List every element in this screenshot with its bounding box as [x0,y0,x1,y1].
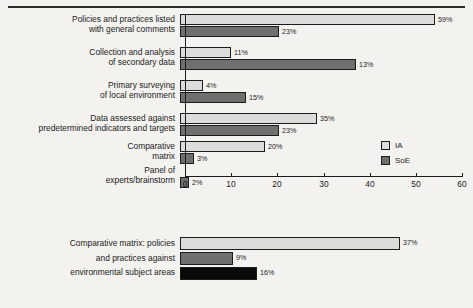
axis-tick-label: 20 [272,180,281,189]
bar-soe [180,153,194,164]
bar-row-soe: 15% [180,92,473,103]
bar-ia [180,80,203,91]
bar-value-label-soe: 15% [249,94,263,101]
category-label-line2: of secondary data [0,57,175,67]
bar-row-ia: 35% [180,113,473,124]
bar-ia [180,47,231,58]
bar-row: 16% [180,266,473,280]
legend-label-ia: IA [395,141,403,150]
category-label: Data assessed againstpredetermined indic… [0,113,180,134]
bar-value-label-ia: 20% [268,143,282,150]
axis-tick-label: 50 [411,180,420,189]
category-bars: 11%13% [180,47,473,71]
category-bars: 35%23% [180,113,473,137]
bar-value-label-soe: 13% [359,61,373,68]
category-label-line2: experts/brainstorm [0,175,175,185]
legend-item-soe: SoE [381,156,410,165]
axis-tick-label: 60 [457,180,466,189]
axis-tick [277,173,278,177]
bar-soe [180,125,279,136]
bar-row: 9% [180,251,473,265]
bottom-chart-row: Comparative matrix: policies and practic… [0,232,473,281]
category-label-line2: with general comments [0,24,175,34]
bar-ia [180,267,257,280]
category-bars: 59%23% [180,14,473,38]
bar-value-label: 37% [403,239,417,246]
category-label: Panel ofexperts/brainstorm [0,165,180,186]
chart-row: Data assessed againstpredetermined indic… [0,113,473,137]
bottom-chart-figure: Comparative matrix: policies and practic… [0,232,473,308]
axis-tick-label: 0 [183,180,188,189]
bar-value-label-soe: 3% [197,155,207,162]
chart-row: Policies and practices listedwith genera… [0,14,473,38]
bar-row-soe: 23% [180,125,473,136]
top-chart-x-axis: 0102030405060 [185,176,468,200]
axis-tick [185,173,186,177]
bottom-chart-bars: 37%9%16% [180,236,473,281]
chart-row: Primary surveyingof local environment4%1… [0,80,473,104]
bottom-chart-category-label-line3: environmental subject areas [0,265,175,280]
bar-row-ia: 11% [180,47,473,58]
bar-row-ia: 4% [180,80,473,91]
axis-tick [324,173,325,177]
top-chart-figure: Policies and practices listedwith genera… [0,0,473,210]
category-label-line1: Collection and analysis [0,47,175,57]
axis-tick-label: 40 [365,180,374,189]
bar-row-ia: 59% [180,14,473,25]
bar-full-audit-soe [180,252,233,265]
bar-value-label-soe: 23% [282,127,296,134]
category-bars: 4%15% [180,80,473,104]
bar-value-label-ia: 4% [206,82,216,89]
legend-label-soe: SoE [395,156,410,165]
chart-row: Collection and analysisof secondary data… [0,47,473,71]
bottom-chart-category-label: Comparative matrix: policies and practic… [0,236,180,280]
category-label-line1: Primary surveying [0,80,175,90]
legend-item-ia: IA [381,141,410,150]
bar-ia [180,141,265,152]
bar-row-soe: 23% [180,26,473,37]
bar-row-soe: 13% [180,59,473,70]
bar-value-label-soe: 23% [282,28,296,35]
legend-swatch-ia-icon [381,141,390,150]
bar-value-label-ia: 11% [234,49,248,56]
category-label-line1: Data assessed against [0,113,175,123]
bar-value-label-ia: 59% [438,16,452,23]
header-divider-rule [8,6,465,8]
bar-ia [180,113,317,124]
axis-tick [416,173,417,177]
bar-row-soe: 3% [180,153,473,164]
category-label-line2: predetermined indicators and targets [0,123,175,133]
axis-tick [370,173,371,177]
bar-row-ia: 20% [180,141,473,152]
bar-soe [180,59,356,70]
top-chart-y-axis-line [185,14,186,177]
category-label-line2: matrix [0,151,175,161]
category-label: Collection and analysisof secondary data [0,47,180,68]
bar-full-audit-ia [180,237,400,250]
category-label-line1: Policies and practices listed [0,14,175,24]
category-label: Primary surveyingof local environment [0,80,180,101]
axis-tick-label: 10 [226,180,235,189]
bar-soe [180,92,246,103]
legend-swatch-soe-icon [381,156,390,165]
bottom-chart-category-label-line1: Comparative matrix: policies [0,236,175,251]
category-label-line1: Comparative [0,141,175,151]
axis-tick [462,173,463,177]
category-label: Policies and practices listedwith genera… [0,14,180,35]
bar-ia [180,14,435,25]
bar-soe [180,26,279,37]
category-bars: 20%3% [180,141,473,165]
category-label: Comparativematrix [0,141,180,162]
bar-row-ia-empty [180,165,473,176]
bar-value-label-ia: 35% [320,115,334,122]
category-label-line2: of local environment [0,90,175,100]
bar-value-label: 9% [236,254,246,261]
axis-tick [231,173,232,177]
axis-tick-label: 30 [319,180,328,189]
bottom-chart-category-label-line2: and practices against [0,251,175,266]
top-chart-legend: IA SoE [381,141,410,171]
bar-value-label: 16% [260,269,274,276]
bar-row: 37% [180,236,473,250]
category-label-line1: Panel of [0,165,175,175]
